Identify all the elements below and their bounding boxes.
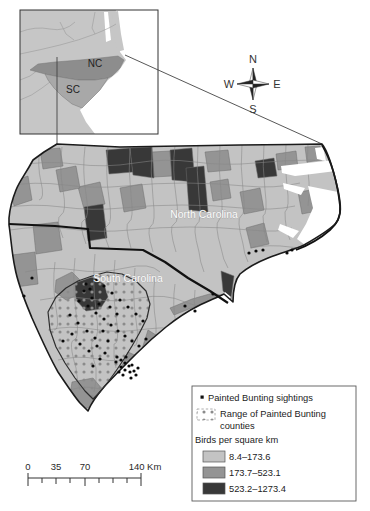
compass-north-label: N (249, 53, 257, 65)
scale-label-140km: 140 Km (129, 461, 162, 472)
density-low-label: 8.4–173.6 (229, 452, 270, 462)
scale-label-70: 70 (80, 461, 91, 472)
map-figure-svg: NC SC N S W E (0, 0, 370, 511)
legend-range-label-line2: counties (220, 421, 255, 431)
compass-south-label: S (249, 103, 256, 115)
compass-rose: N S W E (224, 53, 281, 115)
main-map: North Carolina South Carolina (2, 144, 341, 411)
scale-label-0: 0 (25, 461, 30, 472)
density-high-swatch (203, 483, 225, 494)
inset-nc-label: NC (88, 58, 102, 69)
inset-sc-label: SC (66, 84, 80, 95)
compass-east-label: E (273, 78, 280, 90)
density-mid-swatch (203, 467, 225, 478)
legend: Painted Bunting sightings Range of Paint… (192, 386, 356, 501)
compass-star-icon (237, 68, 269, 100)
south-carolina-label: South Carolina (93, 272, 163, 284)
density-high-label: 523.2–1273.4 (229, 484, 286, 494)
legend-density-title: Birds per square km (195, 435, 278, 445)
inset-locator-map: NC SC (20, 10, 158, 134)
range-swatch-icon (197, 409, 215, 420)
scale-bar-ticks (28, 473, 141, 486)
scale-label-35: 35 (51, 461, 62, 472)
density-low-swatch (203, 451, 225, 462)
scale-bar: 0 35 70 140 Km (25, 461, 161, 486)
sighting-dot-icon (201, 396, 204, 399)
bunting-density-map-figure: NC SC N S W E (0, 0, 370, 511)
legend-sightings-label: Painted Bunting sightings (208, 393, 313, 403)
compass-west-label: W (224, 78, 235, 90)
north-carolina-label: North Carolina (170, 208, 238, 220)
density-mid-label: 173.7–523.1 (229, 468, 281, 478)
legend-range-label-line1: Range of Painted Bunting (220, 409, 326, 419)
